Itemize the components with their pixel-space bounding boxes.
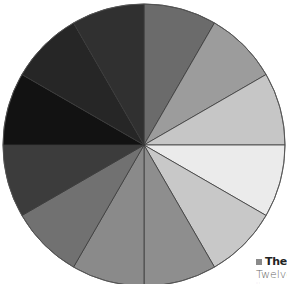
caption: The c Twelve ·· · (256, 256, 287, 284)
grayscale-color-wheel (0, 0, 287, 284)
caption-body: Twelve (256, 268, 287, 281)
square-marker-icon (256, 259, 262, 265)
caption-title-row: The c (256, 256, 287, 268)
caption-title: The c (265, 256, 287, 268)
